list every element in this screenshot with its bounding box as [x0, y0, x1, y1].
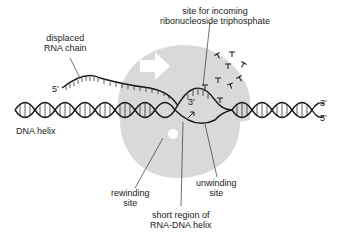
label-line: short region of	[150, 210, 212, 220]
label-rewinding-site: rewinding site	[111, 188, 150, 208]
dna-3prime-end: 3′	[320, 99, 327, 108]
label-dna-helix: DNA helix	[16, 126, 56, 136]
label-line: RNA-DNA helix	[150, 220, 212, 230]
label-line: rewinding	[111, 188, 150, 198]
label-displaced-rna-chain: displaced RNA chain	[44, 33, 87, 53]
label-line: unwinding	[196, 178, 237, 188]
label-line: site for incoming	[160, 6, 270, 16]
label-incoming-site: site for incoming ribonucleoside triphos…	[160, 6, 270, 26]
rna-polymerase	[118, 45, 250, 178]
label-line: RNA chain	[44, 43, 87, 53]
label-line: displaced	[44, 33, 87, 43]
label-short-region: short region of RNA-DNA helix	[150, 210, 212, 230]
label-unwinding-site: unwinding site	[196, 178, 237, 198]
label-line: site	[111, 198, 150, 208]
rna-3prime-end: 3′	[188, 98, 195, 107]
rna-5prime-end: 5′	[52, 85, 59, 94]
label-line: ribonucleoside triphosphate	[160, 16, 270, 26]
dna-5prime-end: 5′	[320, 114, 327, 123]
label-line: site	[196, 188, 237, 198]
